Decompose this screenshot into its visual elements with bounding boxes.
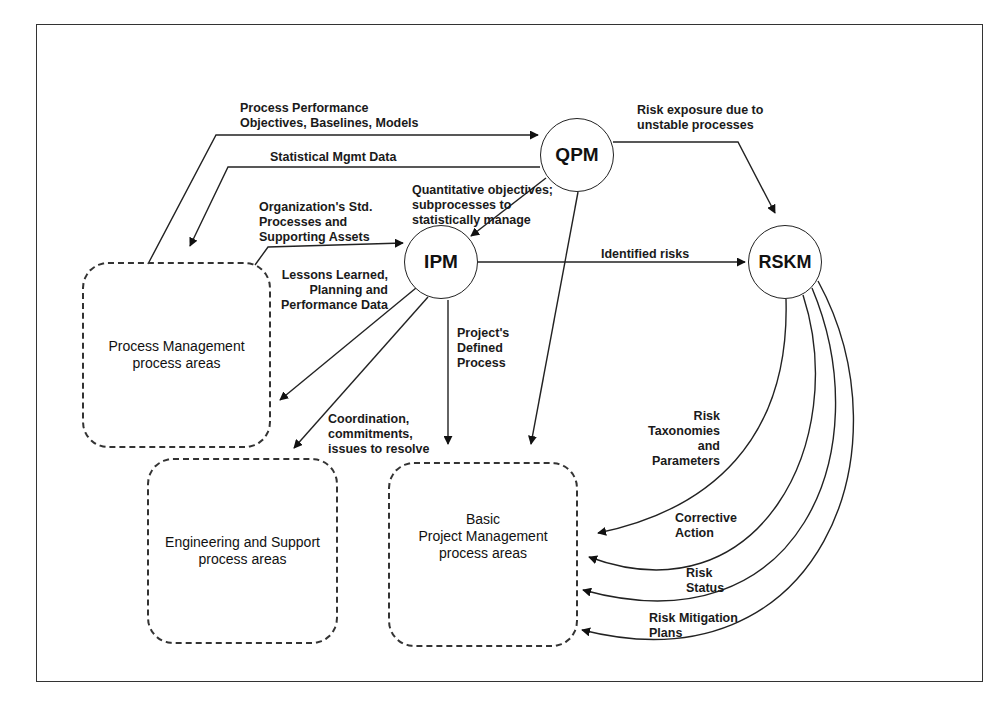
process-management-area: Process Management process areas <box>82 262 271 448</box>
label-org-std: Organization's Std. Processes and Suppor… <box>259 200 372 245</box>
label-ppo: Process Performance Objectives, Baseline… <box>240 101 419 131</box>
label-lessons: Lessons Learned, Planning and Performanc… <box>281 268 388 313</box>
ipm-node: IPM <box>404 225 478 299</box>
label-corrective: Corrective Action <box>675 511 737 541</box>
label-stat-mgmt: Statistical Mgmt Data <box>270 150 396 165</box>
label-mitigation: Risk Mitigation Plans <box>649 611 738 641</box>
label-taxonomies: Risk Taxonomies and Parameters <box>648 409 720 469</box>
engineering-support-area: Engineering and Support process areas <box>147 458 338 644</box>
rskm-node: RSKM <box>748 225 822 299</box>
label-risk-exposure: Risk exposure due to unstable processes <box>637 103 763 133</box>
label-coordination: Coordination, commitments, issues to res… <box>328 412 429 457</box>
label-defined-process: Project's Defined Process <box>457 326 509 371</box>
label-identified-risks: Identified risks <box>601 247 689 262</box>
label-quant-obj: Quantitative objectives; subprocesses to… <box>412 183 553 228</box>
arrow-risk-exposure <box>613 142 775 213</box>
basic-project-management-area: Basic Project Management process areas <box>388 462 578 647</box>
qpm-node: QPM <box>540 118 614 192</box>
arrow-qpm-basic <box>531 192 578 444</box>
label-risk-status: Risk Status <box>686 566 724 596</box>
arrow-org-std <box>255 243 403 265</box>
